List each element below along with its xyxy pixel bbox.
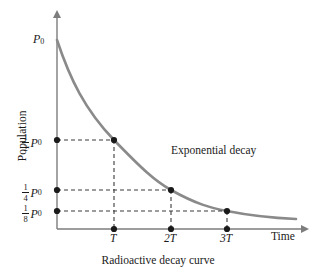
p0-subscript: 0 — [40, 37, 44, 46]
y-tick-marker-eighth — [54, 208, 60, 214]
y-tick-marker-half — [54, 137, 60, 143]
y-tick-label-half: 1 2 P0 — [22, 133, 42, 152]
fraction-numerator: 1 — [22, 204, 28, 213]
fraction-denominator: 4 — [22, 194, 28, 203]
x-tick-label-t: T — [110, 233, 116, 245]
radioactive-decay-figure: Population P0 1 2 P0 1 4 P0 1 8 P0 T 2T … — [0, 0, 316, 278]
fraction-one-eighth: 1 8 — [22, 204, 29, 223]
figure-caption: Radioactive decay curve — [0, 255, 316, 267]
tick-variable: P — [31, 137, 38, 149]
y-tick-marker-quarter — [54, 187, 60, 193]
y-tick-label-p0: P0 — [33, 33, 44, 46]
y-tick-label-quarter: 1 4 P0 — [22, 183, 42, 202]
curve-annotation: Exponential decay — [171, 145, 256, 157]
tick-variable: P — [31, 187, 38, 199]
data-point-two-half-lives — [168, 187, 174, 193]
data-point-half-life — [111, 137, 117, 143]
fraction-denominator: 2 — [22, 144, 28, 153]
y-tick-label-eighth: 1 8 P0 — [22, 204, 42, 223]
x-tick-label-3t: 3T — [220, 233, 232, 245]
x-axis-title: Time — [271, 231, 295, 243]
x-tick-label-2t: 2T — [164, 233, 176, 245]
fraction-one-quarter: 1 4 — [22, 183, 29, 202]
fraction-numerator: 1 — [22, 133, 28, 142]
decay-plot-svg — [0, 0, 316, 278]
fraction-denominator: 8 — [22, 215, 28, 224]
fraction-numerator: 1 — [22, 183, 28, 192]
decay-curve — [57, 40, 296, 219]
data-point-three-half-lives — [224, 208, 230, 214]
fraction-one-half: 1 2 — [22, 133, 29, 152]
tick-subscript: 0 — [38, 139, 42, 147]
tick-subscript: 0 — [38, 189, 42, 197]
tick-variable: P — [31, 208, 38, 220]
tick-subscript: 0 — [38, 210, 42, 218]
